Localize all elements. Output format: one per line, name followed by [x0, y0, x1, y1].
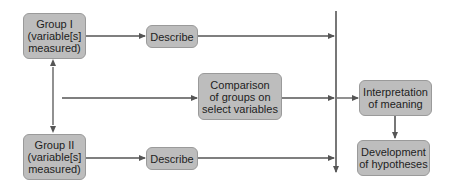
- node-development: Development of hypotheses: [357, 140, 430, 176]
- node-group1: Group I (variable[s] measured): [23, 13, 86, 59]
- arrowhead-down-icon: [50, 126, 56, 133]
- arrowhead-up-icon: [50, 59, 56, 66]
- node-group2: Group II (variable[s] measured): [23, 134, 86, 180]
- node-describe2: Describe: [146, 147, 198, 170]
- node-describe1: Describe: [146, 25, 198, 48]
- node-interpretation: Interpretation of meaning: [359, 80, 432, 116]
- node-comparison: Comparison of groups on select variables: [198, 73, 282, 120]
